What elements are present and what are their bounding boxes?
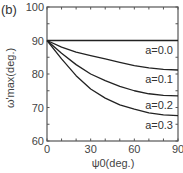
series-label: a=0.0 — [145, 44, 173, 56]
series-label: a=0.1 — [145, 73, 173, 85]
line-chart: 030609060708090100 a=0.0a=0.1a=0.2a=0.3 — [0, 0, 183, 173]
series-labels: a=0.0a=0.1a=0.2a=0.3 — [145, 44, 173, 131]
y-tick-label: 100 — [26, 1, 44, 13]
y-tick-label: 60 — [32, 135, 44, 147]
x-tick-label: 90 — [172, 143, 183, 155]
x-tick-label: 0 — [44, 143, 50, 155]
x-tick-label: 30 — [85, 143, 97, 155]
y-axis-label: ω'max(deg.) — [4, 38, 16, 118]
series-label: a=0.2 — [145, 99, 173, 111]
x-axis-label: ψ0(deg.) — [83, 157, 143, 169]
y-tick-label: 70 — [32, 102, 44, 114]
y-tick-label: 90 — [32, 35, 44, 47]
series-label: a=0.3 — [145, 119, 173, 131]
y-tick-label: 80 — [32, 68, 44, 80]
x-tick-label: 60 — [128, 143, 140, 155]
